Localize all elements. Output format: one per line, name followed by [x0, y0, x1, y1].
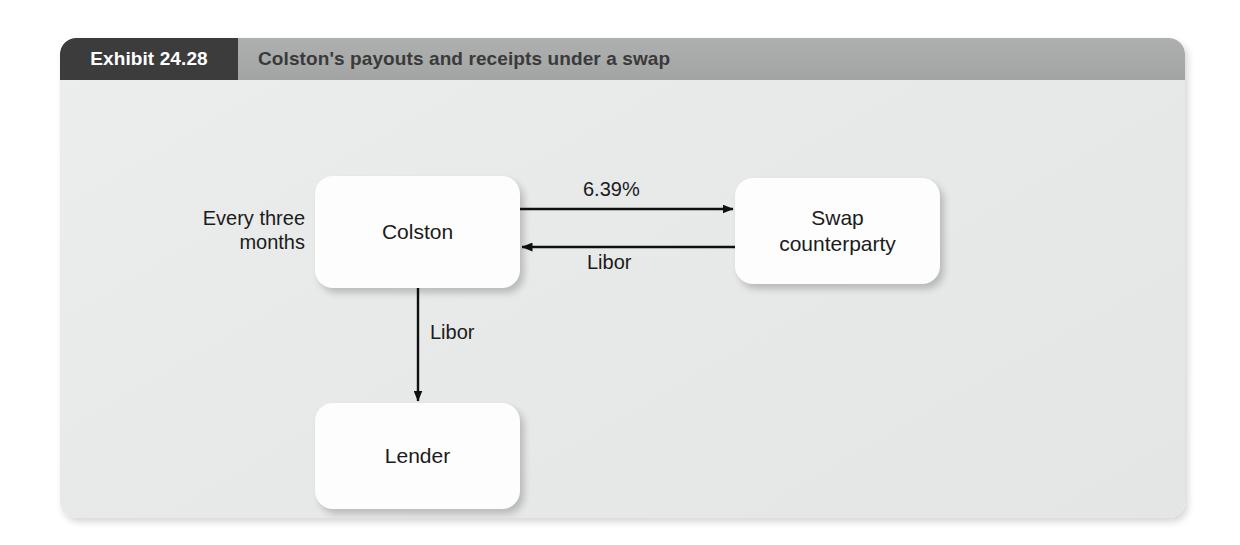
node-swap-counterparty[interactable]: Swap counterparty — [735, 178, 940, 284]
edge-label-swap-to-colston: Libor — [587, 250, 631, 274]
node-swap-counterparty-label: Swap counterparty — [779, 205, 896, 256]
exhibit-number-tab: Exhibit 24.28 — [60, 38, 238, 80]
node-lender-label: Lender — [385, 443, 450, 469]
exhibit-header: Exhibit 24.28 Colston's payouts and rece… — [60, 38, 1185, 80]
exhibit-number-label: Exhibit 24.28 — [90, 48, 207, 70]
node-colston-label: Colston — [382, 219, 453, 245]
edge-label-colston-to-swap: 6.39% — [583, 177, 640, 201]
exhibit-panel: Exhibit 24.28 Colston's payouts and rece… — [60, 38, 1185, 518]
node-lender[interactable]: Lender — [315, 403, 520, 509]
annotation-frequency-label: Every three months — [160, 206, 305, 255]
exhibit-title: Colston's payouts and receipts under a s… — [258, 38, 670, 80]
edge-label-colston-to-lender: Libor — [430, 320, 474, 344]
node-colston[interactable]: Colston — [315, 176, 520, 288]
arrow-layer — [60, 80, 1185, 518]
diagram-canvas: Colston Swap counterparty Lender Every t… — [60, 80, 1185, 518]
